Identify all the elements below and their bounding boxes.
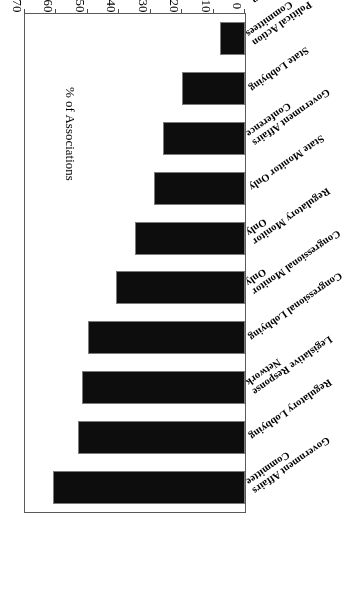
bar-row [25, 163, 245, 213]
bar-row [25, 462, 245, 512]
bar-series [25, 14, 245, 512]
bar [116, 271, 245, 304]
axis-tick-mark [244, 9, 245, 13]
category-label-slot: State Monitor Only [250, 163, 353, 213]
bar [154, 172, 245, 205]
category-axis-labels: Government AffairsCommitteeRegulatory Lo… [246, 14, 353, 512]
bar-row [25, 412, 245, 462]
axis-tick-label: 50 [72, 0, 88, 13]
bar-row [25, 313, 245, 363]
category-label: Political EducationCommittees [244, 0, 328, 5]
category-label-slot: Regulatory Lobbying [250, 412, 353, 462]
value-axis-ticks: 010203040506070 [25, 0, 245, 13]
axis-tick-label: 0 [229, 3, 245, 10]
axis-tick-label: 10 [198, 0, 214, 13]
bar [182, 72, 245, 105]
bar-row [25, 213, 245, 263]
category-label-slot: Government AffairsConference [250, 114, 353, 164]
category-label-slot: Congressional Lobbying [250, 313, 353, 363]
category-label-slot: Political EducationCommittees [250, 0, 353, 21]
value-axis-title: % of Associations [62, 87, 78, 181]
category-label-slot: Political ActionCommittees [250, 14, 353, 64]
bar-row [25, 114, 245, 164]
category-label-slot: Regulatory MonitorOnly [250, 213, 353, 263]
axis-tick-label: 40 [103, 0, 119, 13]
bar [163, 122, 245, 155]
bar [88, 321, 245, 354]
bar [78, 421, 245, 454]
bar [53, 471, 245, 504]
category-label-line: Political Education [250, 0, 328, 5]
axis-tick-label: 60 [40, 0, 56, 13]
category-label-slot: Government AffairsCommittee [250, 462, 353, 512]
axis-tick-label: 20 [166, 0, 182, 13]
bar-row [25, 263, 245, 313]
category-label-slot: Legislative ResponseNetwork [250, 363, 353, 413]
category-label-slot: State Lobbying [250, 64, 353, 114]
bar-row [25, 14, 245, 64]
chart-figure: Government AffairsCommitteeRegulatory Lo… [0, 0, 353, 607]
bar-row [25, 363, 245, 413]
chart-canvas: Government AffairsCommitteeRegulatory Lo… [0, 0, 353, 607]
bar-row [25, 64, 245, 114]
bar [135, 222, 245, 255]
axis-tick-label: 70 [9, 0, 25, 13]
axis-tick-label: 30 [135, 0, 151, 13]
bar [220, 22, 245, 55]
bar [82, 371, 245, 404]
category-label-slot: Congressional MonitorOnly [250, 263, 353, 313]
